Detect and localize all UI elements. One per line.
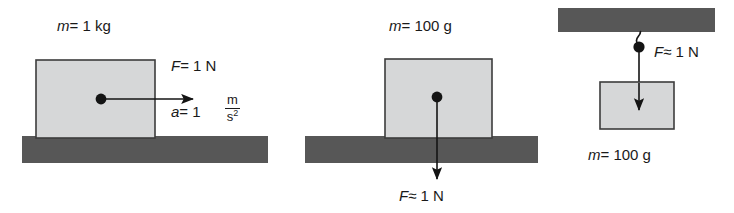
force-value-middle: ≈ 1 N — [408, 187, 444, 204]
block-right — [600, 82, 674, 129]
physics-force-diagram: m= 1 kg F= 1 N a= 1 m s2 m= 100 g F≈ 1 N… — [0, 0, 734, 213]
mass-label-middle: m= 100 g — [389, 18, 452, 33]
mass-label-right: m= 100 g — [588, 147, 651, 162]
force-symbol-middle: F — [399, 187, 408, 204]
mass-value-left: = 1 kg — [70, 17, 111, 34]
force-label-right: F≈ 1 N — [654, 44, 699, 59]
force-label-middle: F≈ 1 N — [399, 188, 444, 203]
acceleration-value-left: = 1 — [179, 103, 200, 120]
ground-bar-middle — [305, 136, 538, 163]
acceleration-label-left: a= 1 — [171, 104, 201, 119]
acceleration-unit-fraction-left: m s2 — [225, 93, 240, 123]
mass-symbol-middle: m — [389, 17, 402, 34]
panel-right-graphics — [558, 8, 715, 129]
force-symbol-left: F — [171, 57, 180, 74]
acceleration-unit-exponent: 2 — [233, 107, 238, 117]
force-value-right: ≈ 1 N — [663, 43, 699, 60]
mass-label-left: m= 1 kg — [57, 18, 111, 33]
mass-symbol-left: m — [57, 17, 70, 34]
acceleration-unit-numerator: m — [225, 93, 240, 109]
ground-bar-left — [22, 136, 268, 163]
panel-middle-graphics — [305, 59, 538, 179]
force-value-left: = 1 N — [180, 57, 216, 74]
ceiling-bar-right — [558, 8, 715, 32]
mass-value-right: = 100 g — [601, 146, 651, 163]
force-label-left: F= 1 N — [171, 58, 216, 73]
force-symbol-right: F — [654, 43, 663, 60]
mass-value-middle: = 100 g — [402, 17, 452, 34]
acceleration-unit-denominator: s2 — [225, 109, 240, 124]
mass-symbol-right: m — [588, 146, 601, 163]
